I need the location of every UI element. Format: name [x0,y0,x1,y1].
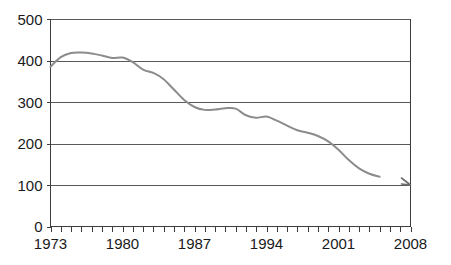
y-tick-label-300: 300 [17,94,42,111]
x-axis-tick-marks [52,227,412,232]
end-point-marker [402,178,411,185]
x-tick-label-1980: 1980 [106,235,139,252]
x-tick-label-2008: 2008 [394,235,427,252]
x-tick-label-1973: 1973 [34,235,67,252]
y-tick-label-0: 0 [34,218,42,235]
x-tick-label-2001: 2001 [322,235,355,252]
x-tick-label-1994: 1994 [250,235,283,252]
y-axis-tick-labels: 0100200300400500 [17,11,50,236]
x-tick-label-1987: 1987 [178,235,211,252]
y-tick-label-200: 200 [17,135,42,152]
gridlines [51,20,411,186]
y-tick-label-500: 500 [17,11,42,28]
data-series-line [51,53,380,177]
chart-canvas: 0100200300400500 19731980198719942001200… [0,0,451,265]
line-chart: 0100200300400500 19731980198719942001200… [0,0,451,265]
x-axis-tick-labels: 197319801987199420012008 [34,235,427,252]
y-tick-label-400: 400 [17,52,42,69]
y-tick-label-100: 100 [17,177,42,194]
